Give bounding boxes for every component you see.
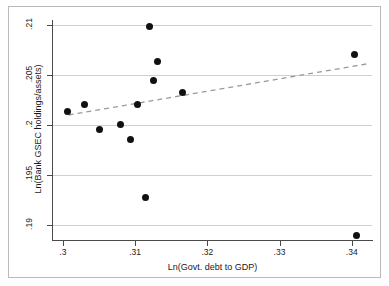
- data-point: [146, 23, 153, 30]
- x-axis-line: [52, 240, 373, 241]
- fitted-trend-line: [0, 0, 389, 286]
- x-tick-label: .32: [192, 247, 222, 257]
- gridline: [52, 75, 372, 76]
- x-tick: [63, 241, 64, 246]
- x-axis-title: Ln(Govt. debt to GDP): [52, 262, 373, 272]
- data-point: [117, 121, 124, 128]
- y-tick: [47, 125, 52, 126]
- data-point: [179, 89, 186, 96]
- x-tick-label: .33: [265, 247, 295, 257]
- y-tick: [47, 225, 52, 226]
- plot-region: .19.195.2.205.21 .3.31.32.33.34 Ln(Govt.…: [0, 0, 389, 286]
- x-tick: [135, 241, 136, 246]
- gridline: [52, 225, 372, 226]
- data-point: [81, 101, 88, 108]
- data-point: [127, 136, 134, 143]
- x-tick: [280, 241, 281, 246]
- y-axis-title: Ln(Bank GSEC holdings/assets): [33, 29, 43, 229]
- data-point: [150, 77, 157, 84]
- y-axis-line: [52, 20, 53, 241]
- scatter-plot-figure: .19.195.2.205.21 .3.31.32.33.34 Ln(Govt.…: [0, 0, 389, 286]
- data-point: [96, 126, 103, 133]
- y-tick: [47, 25, 52, 26]
- data-point: [142, 194, 149, 201]
- x-tick: [352, 241, 353, 246]
- data-point: [353, 232, 360, 239]
- data-point: [154, 58, 161, 65]
- x-tick-label: .3: [48, 247, 78, 257]
- gridline: [52, 175, 372, 176]
- data-point: [64, 108, 71, 115]
- y-tick: [47, 175, 52, 176]
- x-tick: [207, 241, 208, 246]
- x-tick-label: .31: [120, 247, 150, 257]
- gridline: [52, 25, 372, 26]
- data-point: [351, 51, 358, 58]
- y-tick: [47, 75, 52, 76]
- data-point: [134, 101, 141, 108]
- x-tick-label: .34: [337, 247, 367, 257]
